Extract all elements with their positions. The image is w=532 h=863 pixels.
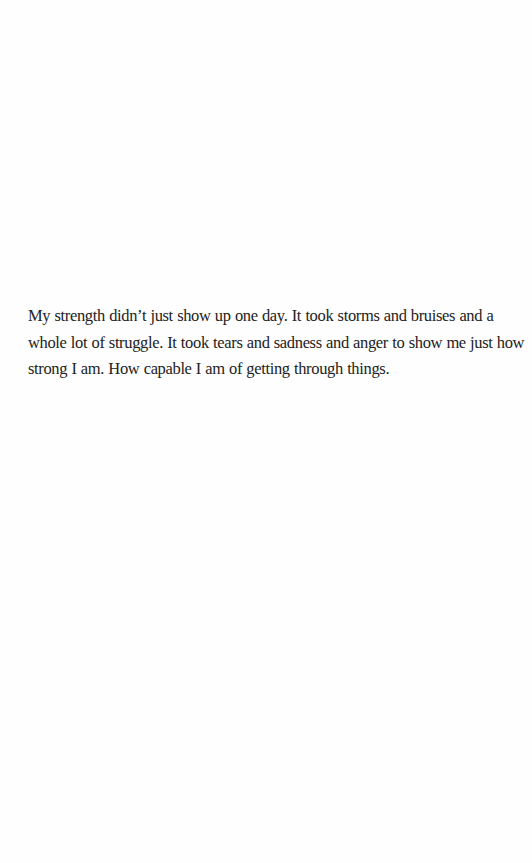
- quote-line-1: My strength didn’t just show up one day.…: [28, 303, 508, 330]
- page: My strength didn’t just show up one day.…: [0, 0, 532, 863]
- quote-line-2: whole lot of struggle. It took tears and…: [28, 330, 508, 357]
- quote-line-3: strong I am. How capable I am of getting…: [28, 356, 508, 383]
- quote-paragraph: My strength didn’t just show up one day.…: [28, 303, 508, 383]
